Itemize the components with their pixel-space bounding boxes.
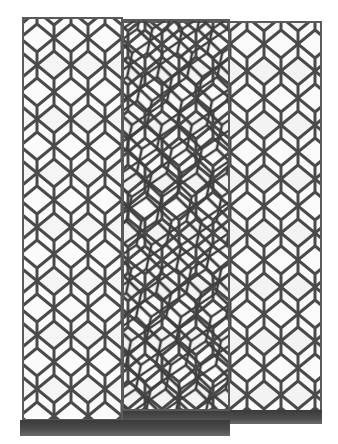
divider-panel-middle [122,19,230,411]
hexagon-lattice-left [24,19,121,419]
divider-base-left [20,420,230,436]
divider-panel-left [22,17,123,421]
room-divider-photo [0,0,338,444]
hexagon-lattice-middle [124,21,228,409]
